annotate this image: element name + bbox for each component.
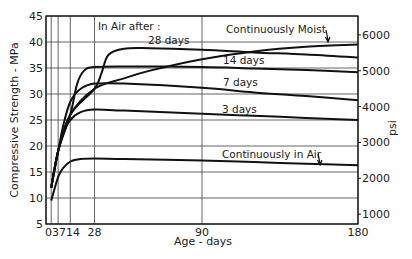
y-right-tick-label: 1000	[362, 208, 390, 221]
y-right-tick-label: 5000	[362, 65, 390, 78]
annotation-3-days: 3 days	[222, 103, 257, 115]
x-axis-label: Age - days	[174, 235, 232, 248]
x-tick-label: 3	[52, 226, 59, 239]
y-tick-label: 15	[29, 166, 43, 179]
x-tick-label: 7	[59, 226, 66, 239]
x-tick-label: 14	[66, 226, 80, 239]
strength-chart: 51015202530354045 037142890180 100020003…	[0, 0, 412, 259]
annotation-group-title: In Air after :	[98, 20, 161, 32]
y-tick-label: 40	[29, 36, 43, 49]
annotation-14-days: 14 days	[223, 54, 264, 66]
x-tick-label: 28	[88, 226, 102, 239]
y-right-tick-label: 6000	[362, 29, 390, 42]
y-axis-left-ticks: 51015202530354045	[29, 10, 43, 231]
annotation-28-days: 28 days	[148, 34, 189, 46]
annotation-7-days: 7 days	[223, 76, 258, 88]
curve-continuously-in-air	[51, 159, 358, 201]
arrow-moist-icon	[326, 30, 331, 42]
y-tick-label: 20	[29, 140, 43, 153]
y-right-tick-label: 3000	[362, 136, 390, 149]
y-axis-label: Compressive Strength - MPa	[8, 42, 21, 197]
y-tick-label: 45	[29, 10, 43, 23]
x-tick-label: 180	[348, 226, 369, 239]
annotation-continuously-in-air: Continuously in Air	[222, 148, 322, 160]
y-tick-label: 5	[36, 218, 43, 231]
y-axis-right-label: psi	[386, 120, 399, 136]
y-tick-label: 30	[29, 88, 43, 101]
x-tick-label: 0	[45, 226, 52, 239]
y-tick-label: 35	[29, 62, 43, 75]
annotation-continuously-moist: Continuously Moist	[226, 23, 326, 35]
y-tick-label: 10	[29, 192, 43, 205]
y-right-tick-label: 4000	[362, 101, 390, 114]
y-right-tick-label: 2000	[362, 172, 390, 185]
y-tick-label: 25	[29, 114, 43, 127]
